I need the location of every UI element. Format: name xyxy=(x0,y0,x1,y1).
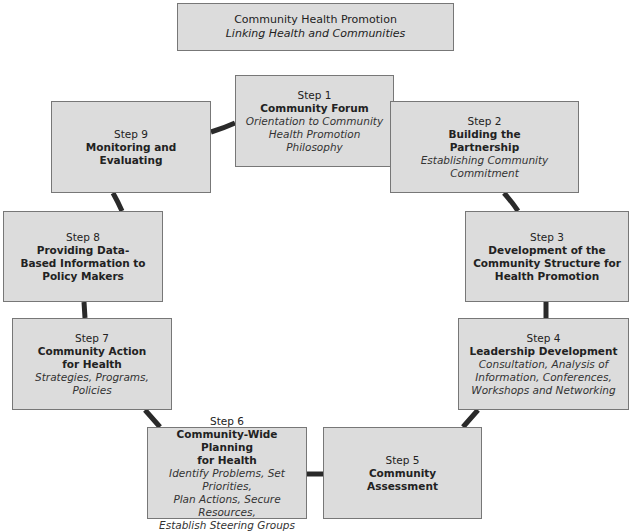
step-7-box: Step 7 Community Action for Health Strat… xyxy=(12,318,172,410)
step-name: for Health xyxy=(197,454,257,467)
step-desc: Identify Problems, Set Priorities, xyxy=(152,467,302,493)
step-name: Community Action xyxy=(38,345,147,358)
step-desc: Health Promotion xyxy=(269,128,361,141)
step-desc: Workshops and Networking xyxy=(471,384,615,397)
step-desc: Consultation, Analysis of xyxy=(479,358,609,371)
step-label: Step 6 xyxy=(210,415,244,428)
step-name: Community Forum xyxy=(260,102,368,115)
step-desc: Plan Actions, Secure Resources, xyxy=(152,493,302,519)
step-name: Health Promotion xyxy=(495,270,599,283)
step-name: Providing Data- xyxy=(37,244,130,257)
step-desc: Establish Steering Groups xyxy=(159,519,295,532)
step-2-box: Step 2 Building the Partnership Establis… xyxy=(390,101,579,193)
step-name: Community xyxy=(369,467,436,480)
step-desc: Commitment xyxy=(450,167,519,180)
step-label: Step 3 xyxy=(530,231,564,244)
step-name: Building the xyxy=(448,128,520,141)
step-desc: Policies xyxy=(72,384,111,397)
step-name: Based Information to xyxy=(20,257,145,270)
step-8-box: Step 8 Providing Data- Based Information… xyxy=(3,211,163,302)
step-name: Community Structure for xyxy=(473,257,621,270)
step-name: Development of the xyxy=(488,244,605,257)
step-name: Evaluating xyxy=(100,154,163,167)
step-desc: Philosophy xyxy=(286,141,343,154)
step-label: Step 1 xyxy=(298,89,332,102)
step-label: Step 5 xyxy=(386,454,420,467)
step-name: Community-Wide Planning xyxy=(152,428,302,454)
connector-4-5 xyxy=(463,410,478,427)
step-name: for Health xyxy=(62,358,122,371)
step-1-box: Step 1 Community Forum Orientation to Co… xyxy=(235,75,394,167)
connector-8-9 xyxy=(113,193,122,211)
diagram-title: Community Health Promotion xyxy=(234,13,397,27)
step-label: Step 4 xyxy=(527,332,561,345)
step-3-box: Step 3 Development of the Community Stru… xyxy=(465,211,629,302)
step-5-box: Step 5 Community Assessment xyxy=(323,427,482,519)
step-name: Monitoring and xyxy=(86,141,176,154)
step-desc: Establishing Community xyxy=(421,154,549,167)
connector-7-8 xyxy=(84,302,85,318)
step-9-box: Step 9 Monitoring and Evaluating xyxy=(51,101,211,193)
diagram-subtitle: Linking Health and Communities xyxy=(226,27,406,41)
step-desc: Orientation to Community xyxy=(246,115,383,128)
step-name: Leadership Development xyxy=(470,345,618,358)
step-desc: Strategies, Programs, xyxy=(35,371,149,384)
step-name: Policy Makers xyxy=(42,270,124,283)
connector-6-7 xyxy=(145,410,160,427)
connector-9-1 xyxy=(211,123,235,132)
step-label: Step 7 xyxy=(75,332,109,345)
step-4-box: Step 4 Leadership Development Consultati… xyxy=(458,318,629,410)
connector-2-3 xyxy=(504,193,518,211)
step-6-box: Step 6 Community-Wide Planning for Healt… xyxy=(147,427,307,519)
step-label: Step 8 xyxy=(66,231,100,244)
step-name: Partnership xyxy=(450,141,519,154)
step-label: Step 9 xyxy=(114,128,148,141)
diagram-title-box: Community Health Promotion Linking Healt… xyxy=(177,3,454,51)
step-desc: Information, Conferences, xyxy=(475,371,612,384)
step-label: Step 2 xyxy=(468,115,502,128)
step-name: Assessment xyxy=(367,480,438,493)
